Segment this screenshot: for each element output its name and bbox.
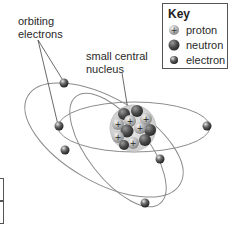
electron bbox=[156, 155, 165, 164]
key-title: Key bbox=[168, 7, 190, 21]
key-legend: Key + proton neutron electron bbox=[162, 3, 228, 69]
cropped-box-edge bbox=[0, 200, 4, 224]
key-item-neutron: neutron bbox=[168, 38, 223, 52]
nucleus: + + + + + + bbox=[110, 105, 156, 151]
svg-text:+: + bbox=[127, 117, 134, 126]
key-label: electron bbox=[186, 54, 225, 66]
electron bbox=[203, 122, 212, 131]
svg-text:+: + bbox=[115, 133, 122, 142]
cropped-box-edge bbox=[0, 178, 4, 202]
electron bbox=[55, 122, 64, 131]
label-line: nucleus bbox=[86, 63, 148, 76]
proton-icon: + bbox=[168, 24, 180, 36]
svg-text:+: + bbox=[171, 26, 178, 35]
label-line: orbiting bbox=[18, 15, 63, 28]
key-label: neutron bbox=[186, 39, 223, 51]
key-label: proton bbox=[186, 24, 217, 36]
electron bbox=[60, 79, 69, 88]
electron-icon bbox=[168, 54, 180, 66]
electron bbox=[61, 146, 70, 155]
svg-text:+: + bbox=[115, 120, 122, 129]
small-central-nucleus-label: small central nucleus bbox=[86, 50, 148, 76]
key-item-electron: electron bbox=[168, 53, 225, 67]
label-line: electrons bbox=[18, 28, 63, 41]
svg-text:+: + bbox=[130, 139, 137, 148]
orbit-paths bbox=[7, 60, 210, 222]
svg-text:+: + bbox=[143, 115, 150, 124]
key-item-proton: + proton bbox=[168, 23, 217, 37]
svg-text:+: + bbox=[137, 124, 144, 133]
electron bbox=[141, 199, 150, 208]
orbit-tilted-a bbox=[7, 60, 201, 221]
label-line: small central bbox=[86, 50, 148, 63]
neutron-icon bbox=[168, 39, 180, 51]
orbiting-electrons-label: orbiting electrons bbox=[18, 15, 63, 41]
